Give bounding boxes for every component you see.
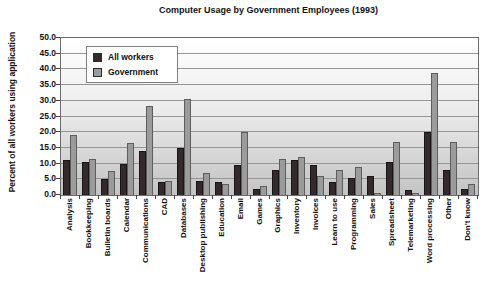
bar bbox=[348, 178, 355, 195]
chart: Computer Usage by Government Employees (… bbox=[0, 0, 484, 289]
y-tick-mark bbox=[56, 131, 60, 132]
bar bbox=[386, 162, 393, 195]
x-tick-mark bbox=[117, 195, 118, 199]
bar-group bbox=[194, 38, 213, 195]
bar bbox=[63, 160, 70, 195]
y-tick-label: 30.0 bbox=[30, 95, 56, 105]
bar bbox=[260, 186, 267, 195]
bar bbox=[241, 132, 248, 195]
x-tick-label: CAD bbox=[160, 198, 169, 215]
x-tick-mark bbox=[344, 195, 345, 199]
bar bbox=[139, 151, 146, 195]
x-tick-label: Education bbox=[217, 198, 226, 237]
x-tick-mark bbox=[477, 195, 478, 199]
legend-label-government: Government bbox=[108, 67, 158, 77]
y-tick-mark bbox=[56, 68, 60, 69]
x-tick-label: Invoices bbox=[311, 198, 320, 230]
bar bbox=[101, 179, 108, 195]
bar bbox=[336, 170, 343, 195]
x-tick-mark bbox=[231, 195, 232, 199]
bar bbox=[272, 170, 279, 195]
bar bbox=[215, 182, 222, 195]
y-tick-label: 40.0 bbox=[30, 63, 56, 73]
x-tick-label: Games bbox=[255, 198, 264, 225]
x-tick-mark bbox=[60, 195, 61, 199]
bar bbox=[253, 189, 260, 195]
x-tick-mark bbox=[212, 195, 213, 199]
legend-swatch-government bbox=[93, 68, 102, 77]
y-tick-mark bbox=[56, 178, 60, 179]
legend-label-all-workers: All workers bbox=[108, 52, 154, 62]
bar bbox=[443, 170, 450, 195]
x-tick-label: Communications bbox=[141, 198, 150, 263]
y-tick-label: 35.0 bbox=[30, 79, 56, 89]
bar bbox=[158, 182, 165, 195]
x-tick-label: Learn to use bbox=[330, 198, 339, 246]
bar bbox=[450, 142, 457, 195]
x-tick-label: Graphics bbox=[273, 198, 282, 233]
bar bbox=[203, 173, 210, 195]
x-tick-mark bbox=[306, 195, 307, 199]
bar bbox=[468, 184, 475, 195]
x-tick-mark bbox=[325, 195, 326, 199]
x-tick-label: Programming bbox=[349, 198, 358, 250]
bar bbox=[222, 184, 229, 195]
bar bbox=[279, 159, 286, 195]
chart-title: Computer Usage by Government Employees (… bbox=[60, 5, 477, 15]
x-tick-label: Analysis bbox=[65, 198, 74, 231]
x-tick-mark bbox=[439, 195, 440, 199]
y-tick-label: 45.0 bbox=[30, 48, 56, 58]
x-tick-label: Inventory bbox=[292, 198, 301, 234]
bar bbox=[146, 106, 153, 195]
x-tick-mark bbox=[174, 195, 175, 199]
bar bbox=[184, 99, 191, 195]
bar bbox=[298, 157, 305, 195]
legend-item-all-workers: All workers bbox=[93, 52, 171, 62]
bar bbox=[291, 160, 298, 195]
y-tick-mark bbox=[56, 84, 60, 85]
x-tick-label: Desktop publishing bbox=[198, 198, 207, 272]
bar-group bbox=[383, 38, 402, 195]
legend-item-government: Government bbox=[93, 67, 171, 77]
x-tick-mark bbox=[136, 195, 137, 199]
x-tick-label: Calendar bbox=[122, 198, 131, 232]
x-tick-label: Telemarketing bbox=[406, 198, 415, 252]
bar bbox=[82, 162, 89, 195]
y-tick-label: 15.0 bbox=[30, 142, 56, 152]
y-tick-label: 20.0 bbox=[30, 126, 56, 136]
bar-group bbox=[213, 38, 232, 195]
bar bbox=[393, 142, 400, 195]
x-tick-mark bbox=[193, 195, 194, 199]
x-tick-mark bbox=[458, 195, 459, 199]
bar bbox=[461, 189, 468, 195]
bar bbox=[405, 190, 412, 195]
bar bbox=[424, 132, 431, 195]
x-tick-label: Bookkeeping bbox=[84, 198, 93, 248]
y-tick-mark bbox=[56, 116, 60, 117]
bar-group bbox=[232, 38, 251, 195]
bar-group bbox=[402, 38, 421, 195]
x-tick-label: Don't know bbox=[463, 198, 472, 241]
bar-group bbox=[421, 38, 440, 195]
bar bbox=[431, 73, 438, 195]
bar-group bbox=[326, 38, 345, 195]
x-tick-label: Sales bbox=[368, 198, 377, 219]
y-tick-label: 25.0 bbox=[30, 111, 56, 121]
bar-group bbox=[345, 38, 364, 195]
bar bbox=[329, 182, 336, 195]
bar-group bbox=[269, 38, 288, 195]
bar bbox=[177, 148, 184, 195]
bar bbox=[317, 176, 324, 195]
bar bbox=[108, 171, 115, 195]
x-tick-mark bbox=[269, 195, 270, 199]
y-tick-label: 10.0 bbox=[30, 158, 56, 168]
y-tick-label: 50.0 bbox=[30, 32, 56, 42]
x-tick-mark bbox=[363, 195, 364, 199]
x-tick-mark bbox=[382, 195, 383, 199]
y-tick-mark bbox=[56, 100, 60, 101]
y-tick-mark bbox=[56, 147, 60, 148]
x-tick-mark bbox=[79, 195, 80, 199]
bar bbox=[70, 135, 77, 195]
x-tick-mark bbox=[155, 195, 156, 199]
x-tick-label: Databases bbox=[179, 198, 188, 238]
